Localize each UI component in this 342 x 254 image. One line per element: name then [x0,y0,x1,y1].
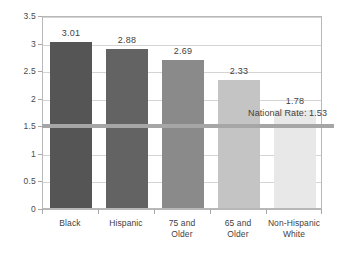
plot-area: 3.012.882.692.331.78 National Rate: 1.53 [42,16,322,209]
bar-value-label: 2.88 [118,35,136,45]
bar-band: 2.88 [99,17,155,208]
x-category-line: White [266,229,322,240]
y-tick-label-2: 2 [31,95,36,103]
bar-band: 2.69 [155,17,211,208]
x-category-line: Hispanic [98,218,154,229]
x-tick-mark [42,209,43,214]
y-tick-label-1.5: 1.5 [24,122,36,130]
x-category-label-hispanic: Hispanic [98,218,154,229]
bar-hispanic[interactable]: 2.88 [106,49,148,208]
y-tick-label-2.5: 2.5 [24,67,36,75]
bar-75-and-older[interactable]: 2.69 [162,60,204,208]
x-category-line: Older [154,229,210,240]
x-category-label-75-and-older: 75 andOlder [154,218,210,240]
x-tick-mark [321,209,322,214]
x-category-line: 75 and [154,218,210,229]
x-category-label-non-hispanic-white: Non-HispanicWhite [266,218,322,240]
x-tick-mark [154,209,155,214]
x-category-label-black: Black [42,218,98,229]
x-category-line: Older [210,229,266,240]
y-tick-label-0.5: 0.5 [24,177,36,185]
bar-65-and-older[interactable]: 2.33 [218,80,260,208]
x-tick-mark [210,209,211,214]
y-tick-label-1: 1 [31,150,36,158]
bar-value-label: 2.69 [174,46,192,56]
y-tick-label-3.5: 3.5 [24,12,36,20]
x-axis: BlackHispanic75 andOlder65 andOlderNon-H… [42,209,322,254]
y-tick-label-0: 0 [31,205,36,213]
bar-value-label: 3.01 [62,28,80,38]
x-category-label-65-and-older: 65 andOlder [210,218,266,240]
national-rate-line [42,124,334,128]
x-tick-mark [266,209,267,214]
x-category-line: Non-Hispanic [266,218,322,229]
y-tick-label-3: 3 [31,40,36,48]
bar-chart: 00.511.522.533.5 3.012.882.692.331.78 Na… [0,0,342,254]
y-axis: 00.511.522.533.5 [0,16,42,209]
bar-value-label: 2.33 [230,66,248,76]
national-rate-label: National Rate: 1.53 [248,108,327,118]
x-category-line: 65 and [210,218,266,229]
bar-band: 3.01 [43,17,99,208]
x-category-line: Black [42,218,98,229]
x-tick-mark [98,209,99,214]
bar-value-label: 1.78 [286,96,304,106]
